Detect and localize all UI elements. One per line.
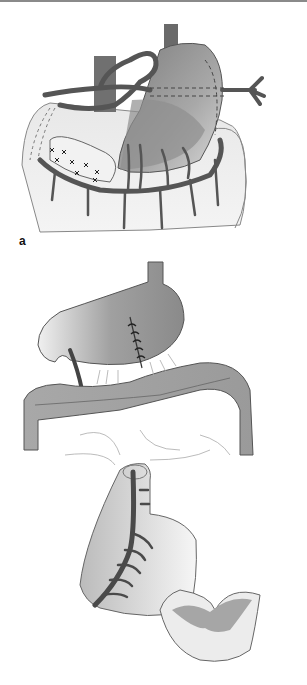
figure-panel-b: b: [0, 250, 307, 685]
splenic-vessel: [222, 78, 264, 104]
stomach-b: [38, 262, 184, 365]
panel-b-illustration: [0, 250, 307, 685]
panel-a-illustration: [0, 0, 307, 250]
figure-panel-a: a: [0, 0, 307, 250]
panel-label-a: a: [19, 234, 26, 248]
transverse-colon: [24, 363, 253, 455]
